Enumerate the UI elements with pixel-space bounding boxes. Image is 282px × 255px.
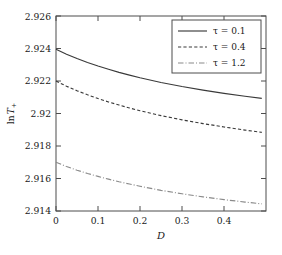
y-tick-label: 2.922 <box>25 75 51 86</box>
line-chart-svg: 2.914 2.916 2.918 2.92 2.922 2.924 2.926… <box>0 0 282 255</box>
y-axis-title: lnT+ <box>5 103 18 124</box>
y-tick-label: 2.916 <box>25 173 51 184</box>
y-tick-label: 2.914 <box>25 205 51 216</box>
series-line-tau-1-2 <box>56 162 262 204</box>
x-tick-label: 0.1 <box>91 215 106 226</box>
legend-label-1: τ = 0.4 <box>213 42 246 52</box>
legend: τ = 0.1 τ = 0.4 τ = 1.2 <box>172 20 261 73</box>
y-tick-label: 2.918 <box>25 140 51 151</box>
series-line-tau-0-4 <box>56 81 262 132</box>
y-tick-label: 2.926 <box>25 11 51 22</box>
y-axis-title-text: lnT+ <box>5 103 18 124</box>
chart-figure: 2.914 2.916 2.918 2.92 2.922 2.924 2.926… <box>0 0 282 255</box>
legend-label-2: τ = 1.2 <box>213 58 246 68</box>
x-tick-label: 0 <box>53 215 59 226</box>
y-tick-label: 2.92 <box>31 108 51 119</box>
x-tick-label: 0.4 <box>217 215 232 226</box>
x-tick-label: 0.2 <box>133 215 148 226</box>
y-tick-label: 2.924 <box>25 43 51 54</box>
x-axis-title: D <box>156 230 165 241</box>
legend-label-0: τ = 0.1 <box>213 26 246 36</box>
x-tick-label: 0.3 <box>175 215 190 226</box>
